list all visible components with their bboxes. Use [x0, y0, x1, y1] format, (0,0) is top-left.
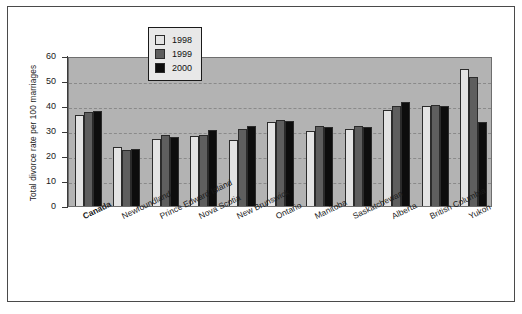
y-tick-label: 50	[10, 76, 56, 86]
bar	[324, 127, 333, 206]
bar	[422, 106, 431, 206]
bar	[345, 129, 354, 207]
bar-group	[300, 58, 339, 206]
legend-item: 1998	[155, 33, 192, 47]
bar	[238, 129, 247, 207]
legend-swatch	[155, 63, 165, 73]
y-tick-label: 40	[10, 101, 56, 111]
legend-swatch	[155, 35, 165, 45]
chart-legend: 199819992000	[148, 27, 202, 81]
legend-item: 1999	[155, 47, 192, 61]
chart-figure: Total divorce rate per 100 marriages 010…	[0, 0, 522, 314]
y-tick-label: 60	[10, 51, 56, 61]
bar-group	[108, 58, 147, 206]
y-tick-label: 20	[10, 151, 56, 161]
bar-group	[377, 58, 416, 206]
bar	[306, 131, 315, 206]
bar-group	[454, 58, 493, 206]
bar-group	[69, 58, 108, 206]
bar	[93, 111, 102, 206]
bar	[75, 115, 84, 206]
bar	[401, 102, 410, 206]
legend-label: 1999	[172, 49, 192, 59]
bar	[354, 126, 363, 206]
bar	[363, 127, 372, 206]
bar	[440, 106, 449, 206]
legend-label: 2000	[172, 63, 192, 73]
y-tick-label: 10	[10, 176, 56, 186]
bar	[122, 150, 131, 206]
bar	[431, 105, 440, 206]
bar	[84, 112, 93, 206]
plot-area	[68, 57, 492, 207]
y-tick-label: 0	[10, 201, 56, 211]
bar	[113, 147, 122, 206]
y-tick-label: 30	[10, 126, 56, 136]
bar-group	[339, 58, 378, 206]
legend-label: 1998	[172, 35, 192, 45]
bar	[460, 69, 469, 207]
legend-swatch	[155, 49, 165, 59]
bar-group	[262, 58, 301, 206]
bar	[315, 126, 324, 206]
bar	[247, 126, 256, 206]
bar-group	[416, 58, 455, 206]
bar	[131, 149, 140, 207]
legend-item: 2000	[155, 61, 192, 75]
